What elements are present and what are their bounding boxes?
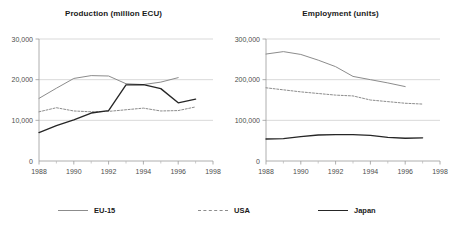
chart-panels: Production (million ECU) 010,00020,00030… [0, 0, 454, 190]
y-axis-tick-label: 0 [29, 158, 33, 165]
series-line-japan [39, 85, 196, 133]
legend-label-usa: USA [234, 206, 250, 215]
legend-line-icon-japan [318, 205, 348, 215]
x-axis-tick-label: 1996 [170, 168, 186, 175]
y-axis-tick-label: 0 [256, 158, 260, 165]
legend-label-eu-15: EU-15 [94, 206, 115, 215]
series-line-usa [39, 107, 196, 112]
x-axis-tick-label: 1994 [363, 168, 379, 175]
chart-panel-employment: Employment (units) 0100,000200,000300,00… [227, 0, 454, 190]
series-line-usa [266, 88, 423, 104]
chart-legend: EU-15 USA Japan [0, 190, 454, 229]
legend-item-usa: USA [198, 201, 318, 219]
legend-item-japan: Japan [318, 201, 403, 219]
x-axis-tick-label: 1990 [293, 168, 309, 175]
y-axis-tick-label: 100,000 [235, 117, 260, 124]
y-axis-tick-label: 20,000 [12, 76, 34, 83]
x-axis-tick-label: 1992 [101, 168, 117, 175]
y-axis-tick-label: 30,000 [12, 36, 34, 43]
y-axis-tick-label: 10,000 [12, 117, 34, 124]
x-axis-tick-label: 1998 [432, 168, 448, 175]
plot-area-production: 010,00020,00030,000198819901992199419961… [0, 0, 227, 190]
x-axis-tick-label: 1996 [397, 168, 413, 175]
series-line-eu-15 [266, 52, 405, 87]
legend-line-icon-eu-15 [58, 205, 88, 215]
y-axis-tick-label: 300,000 [235, 36, 260, 43]
chart-figure: Production (million ECU) 010,00020,00030… [0, 0, 454, 229]
x-axis-tick-label: 1998 [205, 168, 221, 175]
x-axis-tick-label: 1994 [136, 168, 152, 175]
legend-line-icon-usa [198, 205, 228, 215]
legend-label-japan: Japan [354, 206, 376, 215]
chart-panel-production: Production (million ECU) 010,00020,00030… [0, 0, 227, 190]
x-axis-tick-label: 1992 [328, 168, 344, 175]
series-line-eu-15 [39, 76, 178, 99]
y-axis-tick-label: 200,000 [235, 76, 260, 83]
plot-area-employment: 0100,000200,000300,000198819901992199419… [227, 0, 454, 190]
x-axis-tick-label: 1990 [66, 168, 82, 175]
legend-item-eu-15: EU-15 [58, 201, 198, 219]
x-axis-tick-label: 1988 [31, 168, 47, 175]
series-line-japan [266, 135, 423, 139]
chart-legend-items: EU-15 USA Japan [58, 201, 403, 219]
x-axis-tick-label: 1988 [258, 168, 274, 175]
